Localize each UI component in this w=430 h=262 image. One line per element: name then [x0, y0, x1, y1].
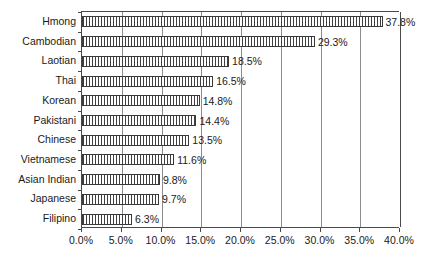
bar-value-label: 9.8% — [163, 174, 187, 186]
x-axis-tick — [359, 228, 360, 232]
bar — [82, 214, 132, 225]
bar-chart: HmongCambodianLaotianThaiKoreanPakistani… — [0, 0, 430, 262]
x-axis-tick — [320, 228, 321, 232]
y-axis-tick — [78, 12, 82, 13]
category-label-asian-indian: Asian Indian — [0, 173, 76, 185]
x-axis-tick — [240, 228, 241, 232]
x-axis-tick — [399, 228, 400, 232]
category-label-cambodian: Cambodian — [0, 35, 76, 47]
category-label-japanese: Japanese — [0, 192, 76, 204]
x-axis-label-20.0: 20.0% — [225, 234, 255, 246]
y-axis-tick — [78, 130, 82, 131]
x-axis-tick — [81, 228, 82, 232]
x-axis-tick — [161, 228, 162, 232]
y-axis-tick — [78, 51, 82, 52]
x-axis-label-15.0: 15.0% — [185, 234, 215, 246]
x-axis-label-10.0: 10.0% — [146, 234, 176, 246]
y-axis-tick — [78, 91, 82, 92]
bar-value-label: 6.3% — [135, 213, 159, 225]
category-label-hmong: Hmong — [0, 15, 76, 27]
bar-value-label: 16.5% — [216, 75, 246, 87]
bar-value-label: 37.8% — [386, 16, 416, 28]
bar-value-label: 29.3% — [318, 36, 348, 48]
bar-value-label: 9.7% — [162, 193, 186, 205]
category-label-thai: Thai — [0, 74, 76, 86]
x-axis-tick — [200, 228, 201, 232]
x-axis-label-25.0: 25.0% — [265, 234, 295, 246]
gridline-40.0 — [400, 12, 401, 227]
bar — [82, 95, 200, 106]
category-label-vietnamese: Vietnamese — [0, 153, 76, 165]
bar — [82, 174, 160, 185]
y-axis-tick — [78, 170, 82, 171]
x-axis-label-0.0: 0.0% — [69, 234, 93, 246]
bar — [82, 194, 159, 205]
x-axis-tick — [121, 228, 122, 232]
bar — [82, 135, 189, 146]
bar — [82, 16, 383, 27]
bar — [82, 36, 315, 47]
category-label-korean: Korean — [0, 94, 76, 106]
plot-area: 37.8%29.3%18.5%16.5%14.8%14.4%13.5%11.6%… — [81, 11, 399, 228]
y-axis-tick — [78, 209, 82, 210]
bar-value-label: 13.5% — [192, 134, 222, 146]
x-axis-label-35.0: 35.0% — [344, 234, 374, 246]
x-axis-label-30.0: 30.0% — [305, 234, 335, 246]
bar-value-label: 18.5% — [232, 55, 262, 67]
y-axis-tick — [78, 190, 82, 191]
y-axis-tick — [78, 71, 82, 72]
x-axis-label-5.0: 5.0% — [109, 234, 133, 246]
bar-value-label: 14.4% — [199, 115, 229, 127]
x-axis-label-40.0: 40.0% — [384, 234, 414, 246]
y-axis-tick — [78, 111, 82, 112]
bar-value-label: 11.6% — [177, 154, 206, 166]
category-label-laotian: Laotian — [0, 54, 76, 66]
bar — [82, 76, 213, 87]
x-axis-tick — [280, 228, 281, 232]
bar — [82, 115, 196, 126]
gridline-35.0 — [360, 12, 361, 227]
bar — [82, 154, 174, 165]
y-axis-tick — [78, 32, 82, 33]
y-axis-tick — [78, 150, 82, 151]
category-label-chinese: Chinese — [0, 133, 76, 145]
category-label-pakistani: Pakistani — [0, 114, 76, 126]
category-label-filipino: Filipino — [0, 212, 76, 224]
bar — [82, 56, 229, 67]
bar-value-label: 14.8% — [203, 95, 233, 107]
